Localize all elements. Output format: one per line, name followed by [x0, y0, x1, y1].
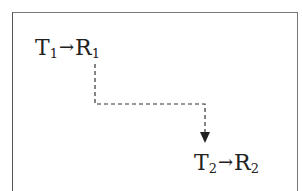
right-arrow-icon: →: [218, 151, 233, 172]
arrowhead-down-icon: [200, 132, 210, 143]
node-r2-sub: 2: [251, 161, 259, 176]
node-r2-main: R: [234, 150, 251, 175]
node-t2-main: T: [194, 150, 209, 175]
node-t2-r2: T2→R2: [194, 152, 259, 175]
node-t2-sub: 2: [209, 161, 217, 176]
